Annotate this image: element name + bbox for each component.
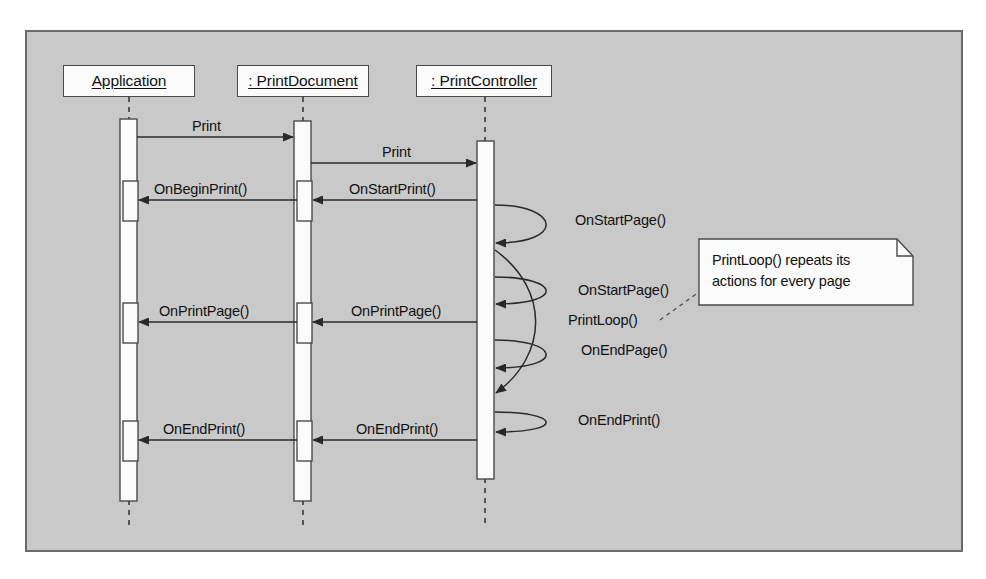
- message-label-onendprint-1: OnEndPrint(): [356, 421, 438, 437]
- message-label-onendprint-2: OnEndPrint(): [163, 421, 245, 437]
- self-loop-s4: [495, 340, 546, 368]
- nested-activation-application-2: [123, 303, 138, 343]
- message-label-onstartprint: OnStartPrint(): [349, 181, 436, 197]
- lifeline-header-application[interactable]: Application: [63, 65, 195, 97]
- note-line-1: PrintLoop() repeats its: [712, 250, 902, 271]
- note-line-2: actions for every page: [712, 271, 902, 292]
- nested-activation-application-3: [123, 421, 138, 461]
- activation-printcontroller: [477, 141, 494, 479]
- self-message-label-onendpage: OnEndPage(): [581, 342, 667, 358]
- message-label-onprintpage-2: OnPrintPage(): [159, 303, 249, 319]
- self-loop-s1: [495, 205, 546, 243]
- lifeline-header-printdocument[interactable]: : PrintDocument: [237, 65, 369, 97]
- self-loop-s2: [495, 277, 546, 304]
- nested-activations: [123, 181, 312, 461]
- self-loop-s5: [495, 412, 546, 432]
- nested-activation-printdocument-1: [297, 181, 312, 221]
- self-message-label-onendprint: OnEndPrint(): [578, 412, 660, 428]
- message-label-print-1: Print: [192, 118, 221, 134]
- self-message-loops: [495, 205, 546, 432]
- lifeline-label-application: Application: [92, 72, 167, 90]
- nested-activation-printdocument-2: [297, 303, 312, 343]
- lifeline-label-printcontroller: : PrintController: [431, 72, 537, 90]
- lifeline-header-printcontroller[interactable]: : PrintController: [416, 65, 552, 97]
- diagram-page: Application : PrintDocument : PrintContr…: [0, 0, 986, 579]
- nested-activation-printdocument-3: [297, 421, 312, 461]
- self-message-label-onstartpage-2: OnStartPage(): [578, 282, 669, 298]
- message-label-onprintpage-1: OnPrintPage(): [351, 303, 441, 319]
- printloop-note-text: PrintLoop() repeats its actions for ever…: [712, 250, 902, 292]
- message-label-print-2: Print: [382, 144, 411, 160]
- self-message-label-onstartpage-1: OnStartPage(): [575, 212, 666, 228]
- self-loop-printloop: [495, 250, 536, 393]
- lifeline-label-printdocument: : PrintDocument: [248, 72, 358, 90]
- nested-activation-application-1: [123, 181, 138, 221]
- message-label-onbeginprint: OnBeginPrint(): [154, 181, 247, 197]
- self-message-label-printloop: PrintLoop(): [568, 312, 638, 328]
